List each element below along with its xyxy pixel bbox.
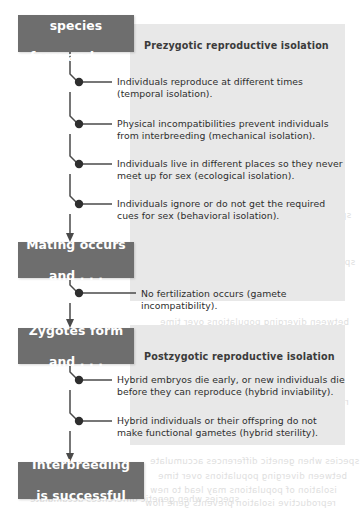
stage-line-1: Zygotes form — [18, 323, 134, 339]
item-line-1: Physical incompatibilities prevent indiv… — [117, 118, 329, 130]
item-line-2: meet up for sex (ecological isolation). — [117, 170, 343, 182]
item-line-1: Individuals live in different places so … — [117, 158, 343, 170]
item-line-1: Individuals reproduce at different times — [117, 76, 303, 88]
panel-title-postzygotic: Postzygotic reproductive isolation — [144, 351, 335, 362]
item-line-1: Hybrid individuals or their offspring do… — [117, 415, 318, 427]
stage-line-2: is successful — [18, 488, 144, 504]
ghost-text-line: species when genetic differences accumul… — [150, 455, 359, 468]
stage-box-different-species[interactable]: Different species form and . . . — [18, 15, 134, 52]
prezygotic-item: Individuals live in different places so … — [117, 158, 343, 183]
item-line-2: make functional gametes (hybrid sterilit… — [117, 427, 318, 439]
prezygotic-item: Individuals reproduce at different times… — [117, 76, 303, 101]
stage-line-2: and . . . — [18, 354, 134, 370]
ghost-text-line: reproductive isolation prevents gene flo… — [145, 497, 336, 509]
item-line-2: (temporal isolation). — [117, 88, 303, 100]
item-line-2: before they can reproduce (hybrid inviab… — [117, 386, 345, 398]
diagram-canvas: isolation of populations may lead to new… — [0, 0, 360, 509]
ghost-text-line: isolation of populations may lead to new — [150, 484, 337, 497]
stage-line-2: and . . . — [18, 268, 134, 284]
postzygotic-item: Hybrid individuals or their offspring do… — [117, 415, 318, 440]
mating-item: No fertilization occurs (gamete incompat… — [141, 288, 360, 313]
stage-line-2: form and . . . — [18, 49, 134, 65]
item-line-1: Hybrid embryos die early, or new individ… — [117, 374, 345, 386]
stage-box-zygotes-form[interactable]: Zygotes form and . . . — [18, 328, 134, 364]
item-line-2: from interbreeding (mechanical isolation… — [117, 130, 329, 142]
postzygotic-item: Hybrid embryos die early, or new individ… — [117, 374, 345, 399]
prezygotic-item: Individuals ignore or do not get the req… — [117, 198, 325, 223]
stage-line-1: Mating occurs — [18, 237, 134, 253]
ghost-text-line: between diverging populations over time — [158, 470, 347, 483]
stage-box-interbreeding-successful[interactable]: Interbreeding is successful — [18, 462, 144, 499]
stage-line-1: Different species — [18, 3, 134, 34]
item-line-2: cues for sex (behavioral isolation). — [117, 210, 325, 222]
item-line-1: No fertilization occurs (gamete incompat… — [141, 288, 360, 313]
item-line-1: Individuals ignore or do not get the req… — [117, 198, 325, 210]
panel-title-prezygotic: Prezygotic reproductive isolation — [144, 40, 329, 51]
stage-box-mating-occurs[interactable]: Mating occurs and . . . — [18, 242, 134, 278]
stage-line-1: Interbreeding — [18, 457, 144, 473]
prezygotic-item: Physical incompatibilities prevent indiv… — [117, 118, 329, 143]
